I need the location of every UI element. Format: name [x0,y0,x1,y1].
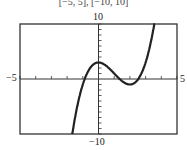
plot-area [0,0,187,150]
